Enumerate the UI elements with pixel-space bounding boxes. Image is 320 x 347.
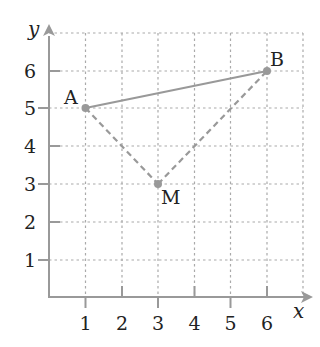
point-a-label: A (63, 86, 78, 108)
y-tick-5: 5 (24, 97, 36, 119)
coordinate-diagram: 1 2 3 4 5 6 1 2 3 4 5 6 x y A B M (0, 0, 320, 347)
y-axis-arrow-icon (43, 24, 55, 36)
x-tick-labels: 1 2 3 4 5 6 (79, 312, 273, 334)
y-tick-1: 1 (24, 249, 36, 271)
x-tick-3: 3 (152, 312, 164, 334)
point-a (82, 104, 90, 112)
x-tick-6: 6 (261, 312, 273, 334)
segment-ab (86, 71, 268, 108)
y-tick-labels: 1 2 3 4 5 6 (24, 60, 36, 271)
x-tick-4: 4 (188, 312, 200, 334)
point-m-label: M (161, 186, 180, 208)
y-tick-6: 6 (24, 60, 36, 82)
y-tick-3: 3 (24, 173, 36, 195)
y-tick-4: 4 (24, 135, 36, 157)
x-axis-label: x (293, 299, 304, 323)
x-tick-2: 2 (116, 312, 128, 334)
x-tick-1: 1 (79, 312, 91, 334)
axes (48, 36, 304, 298)
point-b-label: B (270, 48, 284, 70)
y-axis-label: y (27, 17, 40, 41)
y-tick-2: 2 (24, 211, 36, 233)
segment-mb (158, 71, 267, 184)
x-tick-5: 5 (224, 312, 236, 334)
